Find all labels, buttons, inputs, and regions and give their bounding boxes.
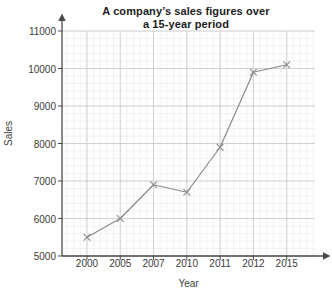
x-axis-tick-labels: 2000200520072010201120122015 (62, 258, 315, 274)
x-axis-title: Year (62, 278, 315, 289)
y-axis-tick-label: 10000 (28, 63, 56, 74)
y-axis-title: Sales (3, 114, 14, 154)
y-axis-tick-label: 6000 (34, 213, 56, 224)
y-axis-tick-label: 8000 (34, 138, 56, 149)
y-axis-tick-label: 9000 (34, 101, 56, 112)
x-axis-tick-label: 2012 (242, 258, 264, 269)
y-axis-tick-label: 7000 (34, 176, 56, 187)
sales-line-chart: A company’s sales figures over a 15-year… (0, 0, 332, 299)
y-axis-tick-label: 5000 (34, 251, 56, 262)
x-axis-tick-label: 2005 (109, 258, 131, 269)
x-axis-tick-label: 2011 (209, 258, 231, 269)
x-axis-tick-label: 2015 (276, 258, 298, 269)
y-axis-tick-label: 11000 (29, 26, 56, 37)
x-axis-tick-label: 2000 (76, 258, 98, 269)
x-axis-tick-label: 2010 (176, 258, 198, 269)
x-axis-tick-label: 2007 (142, 258, 164, 269)
axis-lines (40, 14, 332, 274)
